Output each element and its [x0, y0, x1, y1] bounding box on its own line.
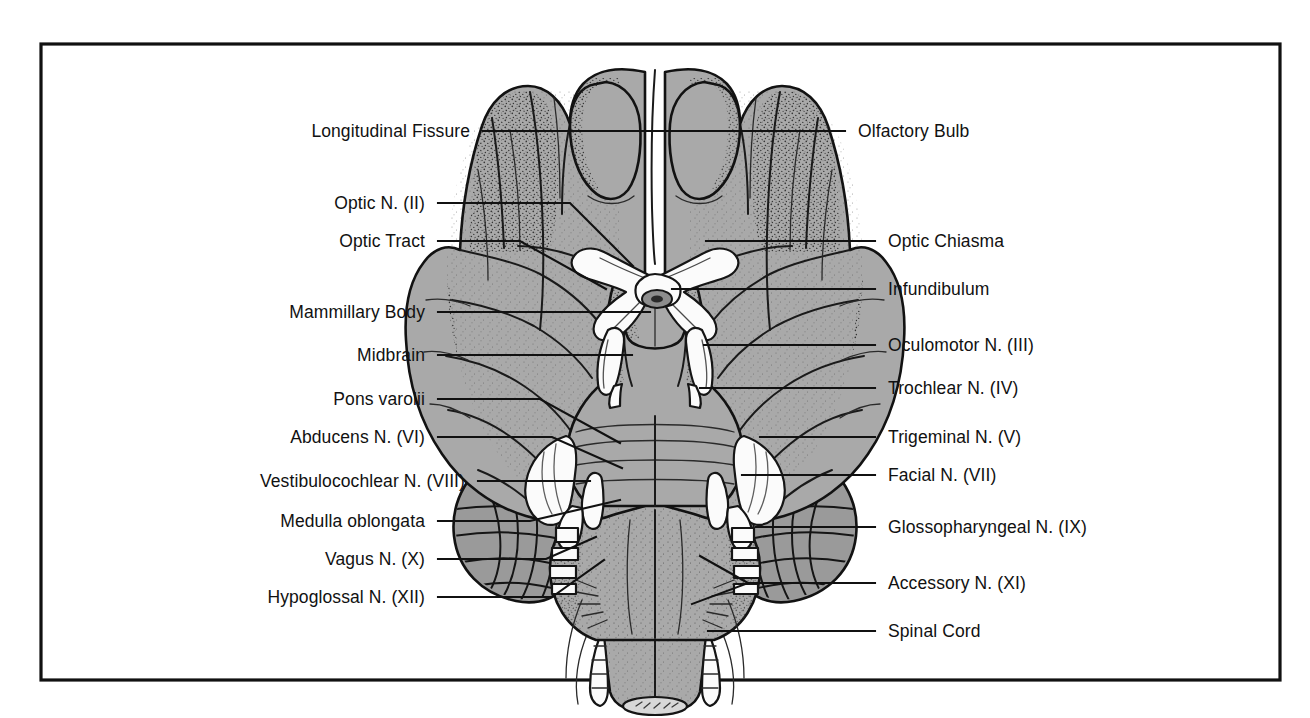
label-midbrain: Midbrain: [357, 345, 425, 365]
spinal-cord: [576, 628, 733, 718]
label-pons-varolii: Pons varolii: [333, 389, 425, 409]
label-optic-tract: Optic Tract: [339, 231, 425, 251]
label-abducens-nerve: Abducens N. (VI): [290, 427, 425, 447]
label-optic-nerve: Optic N. (II): [334, 193, 425, 213]
label-spinal-cord: Spinal Cord: [888, 621, 981, 641]
longitudinal-fissure: [652, 70, 655, 264]
label-glossopharyngeal-nerve: Glossopharyngeal N. (IX): [888, 517, 1087, 537]
label-vagus-nerve: Vagus N. (X): [325, 549, 425, 569]
brain-ventral-view-diagram: Longitudinal Fissure Optic N. (II) Optic…: [0, 0, 1310, 718]
label-longitudinal-fissure: Longitudinal Fissure: [311, 121, 470, 141]
label-hypoglossal-nerve: Hypoglossal N. (XII): [267, 587, 425, 607]
label-optic-chiasma: Optic Chiasma: [888, 231, 1004, 251]
label-oculomotor-nerve: Oculomotor N. (III): [888, 335, 1034, 355]
label-trigeminal-nerve: Trigeminal N. (V): [888, 427, 1021, 447]
infundibulum: [636, 274, 681, 308]
label-mammillary-body: Mammillary Body: [289, 302, 425, 322]
label-accessory-nerve: Accessory N. (XI): [888, 573, 1026, 593]
label-infundibulum: Infundibulum: [888, 279, 989, 299]
label-medulla-oblongata: Medulla oblongata: [280, 511, 425, 531]
labels-right-group: Olfactory Bulb Optic Chiasma Infundibulu…: [858, 121, 1087, 641]
brain-illustration: [406, 69, 905, 718]
label-olfactory-bulb: Olfactory Bulb: [858, 121, 969, 141]
label-vestibulocochlear-nerve: Vestibulocochlear N. (VIII): [260, 471, 465, 491]
label-facial-nerve: Facial N. (VII): [888, 465, 996, 485]
figure-root: Longitudinal Fissure Optic N. (II) Optic…: [0, 0, 1310, 718]
label-trochlear-nerve: Trochlear N. (IV): [888, 378, 1018, 398]
